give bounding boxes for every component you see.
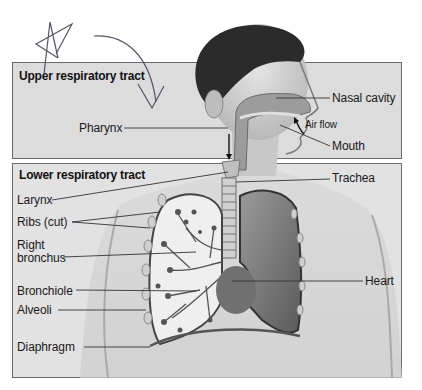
head-figure bbox=[195, 24, 318, 154]
label-diaphragm: Diaphragm bbox=[17, 340, 75, 354]
label-alveoli: Alveoli bbox=[17, 303, 52, 317]
handwritten-arrow-icon bbox=[94, 36, 156, 102]
label-air-flow: Air flow bbox=[305, 118, 337, 132]
label-mouth: Mouth bbox=[332, 139, 365, 153]
label-ribs-cut: Ribs (cut) bbox=[17, 215, 67, 229]
label-nasal-cavity: Nasal cavity bbox=[332, 91, 396, 105]
label-right-bronchus-line2: bronchus bbox=[17, 251, 66, 265]
label-bronchiole: Bronchiole bbox=[17, 284, 73, 298]
right-lung-cutaway bbox=[142, 194, 222, 344]
heart-figure bbox=[216, 266, 256, 314]
handwritten-annotations bbox=[36, 22, 164, 108]
label-right-bronchus-line1: Right bbox=[17, 238, 45, 252]
handwritten-star-icon bbox=[36, 22, 72, 74]
label-pharynx: Pharynx bbox=[79, 121, 122, 135]
label-larynx: Larynx bbox=[17, 193, 52, 207]
label-trachea: Trachea bbox=[332, 171, 375, 185]
anatomy-illustration bbox=[0, 0, 422, 390]
label-heart: Heart bbox=[365, 274, 394, 288]
